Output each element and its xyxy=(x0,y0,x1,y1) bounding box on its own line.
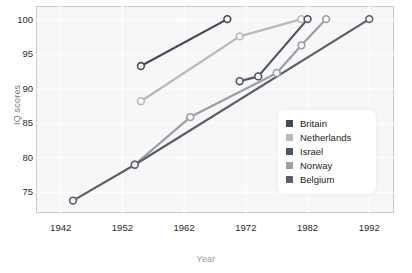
data-point xyxy=(273,70,280,77)
legend-swatch-icon xyxy=(286,134,293,141)
iq-scores-line-chart: 7580859095100 194219521962197219821992 I… xyxy=(0,0,412,273)
x-tick-label: 1952 xyxy=(102,222,142,233)
y-axis-title: IQ scores xyxy=(12,85,22,125)
legend-item-netherlands[interactable]: Netherlands xyxy=(286,131,368,144)
x-tick-label: 1972 xyxy=(226,222,266,233)
data-point xyxy=(298,42,305,49)
legend-swatch-icon xyxy=(286,176,293,183)
data-point xyxy=(224,16,231,23)
x-tick-label: 1942 xyxy=(41,222,81,233)
y-tick-label: 80 xyxy=(3,152,33,163)
legend-item-norway[interactable]: Norway xyxy=(286,159,368,172)
legend-item-label: Britain xyxy=(300,117,327,130)
data-point xyxy=(323,16,330,23)
y-tick-label: 75 xyxy=(3,186,33,197)
data-point xyxy=(366,16,373,23)
legend-swatch-icon xyxy=(286,120,293,127)
legend-item-label: Israel xyxy=(300,145,323,158)
data-point xyxy=(187,114,194,121)
x-axis-title: Year xyxy=(0,254,412,264)
data-point xyxy=(138,63,145,70)
legend-item-label: Netherlands xyxy=(300,131,351,144)
data-point xyxy=(255,73,262,80)
y-axis-tick-labels: 7580859095100 xyxy=(0,0,33,273)
data-point xyxy=(70,197,77,204)
data-point xyxy=(236,33,243,40)
data-point xyxy=(138,98,145,105)
legend-item-britain[interactable]: Britain xyxy=(286,117,368,130)
x-tick-label: 1982 xyxy=(288,222,328,233)
y-tick-label: 95 xyxy=(3,48,33,59)
x-tick-label: 1992 xyxy=(349,222,389,233)
data-point xyxy=(131,161,138,168)
data-point xyxy=(236,78,243,85)
legend-swatch-icon xyxy=(286,148,293,155)
legend-item-israel[interactable]: Israel xyxy=(286,145,368,158)
y-tick-label: 100 xyxy=(3,14,33,25)
legend-swatch-icon xyxy=(286,162,293,169)
chart-legend: BritainNetherlandsIsraelNorwayBelgium xyxy=(278,110,376,194)
legend-item-label: Norway xyxy=(300,159,332,172)
legend-item-belgium[interactable]: Belgium xyxy=(286,173,368,186)
legend-item-label: Belgium xyxy=(300,173,334,186)
x-tick-label: 1962 xyxy=(164,222,204,233)
data-point xyxy=(304,16,311,23)
